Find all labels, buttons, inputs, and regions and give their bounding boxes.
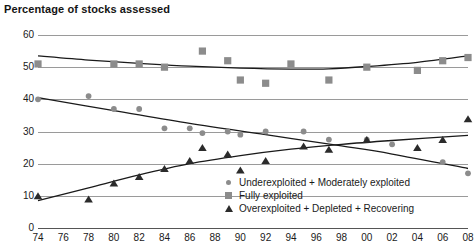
data-point-square [110, 60, 117, 67]
data-point-square [414, 67, 421, 74]
data-point-circle [35, 96, 41, 102]
data-point-circle [136, 106, 142, 112]
data-point-circle [465, 170, 471, 176]
x-tick-label: 06 [437, 232, 448, 243]
legend-label: Overexploited + Depleted + Recovering [239, 203, 414, 215]
data-point-circle [326, 137, 332, 143]
data-point-circle [225, 129, 231, 135]
y-tick-label: 20 [4, 159, 34, 169]
legend-square-icon [222, 189, 236, 202]
trend-line [38, 98, 468, 169]
legend-marker-glyph [225, 205, 233, 212]
data-point-circle [263, 129, 269, 135]
y-tick-label: 50 [4, 62, 34, 72]
legend-item[interactable]: Underexploited + Moderately exploited [222, 176, 452, 189]
y-tick-label: 60 [4, 30, 34, 40]
data-point-square [439, 57, 446, 64]
legend-triangle-icon [222, 202, 236, 215]
data-point-square [161, 64, 168, 71]
x-tick-label: 84 [159, 232, 170, 243]
data-point-circle [301, 129, 307, 135]
x-tick-label: 94 [285, 232, 296, 243]
data-point-square [136, 60, 143, 67]
x-tick-label: 92 [260, 232, 271, 243]
x-tick-label: 08 [462, 232, 473, 243]
data-point-square [325, 76, 332, 83]
data-point-circle [86, 93, 92, 99]
data-point-triangle [34, 192, 43, 199]
data-point-circle [389, 141, 395, 147]
data-point-circle [200, 130, 206, 136]
x-tick-label: 02 [387, 232, 398, 243]
legend-item[interactable]: Overexploited + Depleted + Recovering [222, 202, 452, 215]
y-tick-label: 10 [4, 191, 34, 201]
data-point-triangle [223, 151, 232, 158]
data-point-triangle [464, 115, 473, 122]
data-point-triangle [84, 196, 93, 203]
data-point-triangle [299, 142, 308, 149]
data-point-circle [440, 159, 446, 165]
data-point-triangle [363, 136, 372, 143]
x-tick-label: 78 [83, 232, 94, 243]
x-tick-label: 80 [108, 232, 119, 243]
x-tick-label: 90 [235, 232, 246, 243]
data-point-square [363, 64, 370, 71]
x-tick-label: 88 [209, 232, 220, 243]
data-point-square [199, 47, 206, 54]
data-point-triangle [325, 146, 334, 153]
data-point-triangle [185, 157, 194, 164]
legend-label: Underexploited + Moderately exploited [239, 177, 410, 189]
data-point-circle [111, 106, 117, 112]
legend-label: Fully exploited [239, 190, 303, 202]
legend-marker-glyph [225, 192, 232, 199]
x-tick-label: 04 [412, 232, 423, 243]
trend-line [38, 56, 468, 69]
data-point-triangle [236, 167, 245, 174]
x-tick-label: 00 [361, 232, 372, 243]
legend-item[interactable]: Fully exploited [222, 189, 452, 202]
chart-legend: Underexploited + Moderately exploitedFul… [222, 176, 452, 218]
legend-marker-glyph [226, 180, 231, 185]
data-point-triangle [261, 157, 270, 164]
x-tick-label: 74 [32, 232, 43, 243]
data-point-circle [187, 125, 193, 131]
data-point-triangle [413, 144, 422, 151]
data-point-square [237, 76, 244, 83]
chart-title: Percentage of stocks assessed [4, 3, 170, 15]
data-point-square [34, 60, 41, 67]
y-tick-label: 30 [4, 127, 34, 137]
data-point-circle [237, 132, 243, 138]
y-tick-label: 0 [4, 223, 34, 233]
data-point-triangle [198, 144, 207, 151]
legend-circle-icon [222, 176, 236, 189]
data-point-square [262, 80, 269, 87]
y-tick-label: 40 [4, 94, 34, 104]
chart-container: Percentage of stocks assessed 0102030405… [0, 0, 474, 252]
x-tick-label: 76 [58, 232, 69, 243]
gridline-0 [38, 228, 468, 229]
data-point-square [464, 54, 471, 61]
x-tick-label: 82 [134, 232, 145, 243]
x-tick-label: 96 [311, 232, 322, 243]
data-point-circle [162, 125, 168, 131]
y-axis: 0102030405060 [0, 35, 34, 228]
data-point-square [287, 60, 294, 67]
x-axis: 747678808284868890929496980002040608 [38, 232, 468, 246]
x-tick-label: 86 [184, 232, 195, 243]
data-point-square [224, 57, 231, 64]
x-tick-label: 98 [336, 232, 347, 243]
